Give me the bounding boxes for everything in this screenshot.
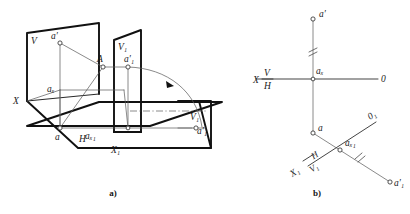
epure-label-v: V: [264, 68, 271, 78]
point-ax1-marker: [126, 126, 130, 130]
epure-label-ax1: aₓ₁: [345, 138, 356, 148]
epure-label-h: H: [263, 81, 272, 91]
point-aprime-marker: [58, 41, 62, 45]
point-A-marker: [101, 65, 105, 69]
epure-label-a1prime: a′₁: [394, 178, 404, 188]
label-ax1: aₓ₁: [85, 131, 96, 141]
descriptive-geometry-figure: V a′ A V₁ a′₁ aₓ X a H aₓ₁ X₁ V₁ a′₁: [0, 0, 410, 214]
label-v1-plane: V₁: [118, 42, 127, 52]
epure-label-aprime: a′: [319, 9, 327, 19]
line-aux-slant: [124, 90, 128, 128]
label-rotated-a1prime: a′₁: [197, 126, 207, 136]
epure-label-origin: 0: [381, 74, 386, 84]
label-a1prime: a′₁: [124, 54, 134, 64]
figure-container: V a′ A V₁ a′₁ aₓ X a H aₓ₁ X₁ V₁ a′₁: [0, 0, 410, 214]
v-plane-outline: [27, 23, 99, 101]
epure-label-v1-secondary: V₁: [307, 161, 320, 174]
pictorial-group: V a′ A V₁ a′₁ aₓ X a H aₓ₁ X₁ V₁ a′₁: [12, 23, 222, 155]
label-x-axis: X: [12, 96, 20, 106]
label-a: a: [55, 132, 60, 142]
label-ax: aₓ: [47, 84, 55, 94]
epure-label-x: X: [252, 75, 260, 85]
rotation-arrow-head: [166, 81, 174, 88]
label-aprime: a′: [51, 31, 59, 41]
epure-label-ax: aₓ: [316, 66, 324, 76]
epure-point-ax1-marker: [338, 148, 342, 152]
label-v1-rotated: V₁: [190, 112, 199, 122]
point-a-marker: [58, 126, 62, 130]
label-v-plane: V: [31, 36, 38, 46]
epure-point-ax-marker: [311, 77, 315, 81]
point-a1prime-marker: [126, 65, 130, 69]
epure-point-a1prime-marker: [388, 180, 392, 184]
epure-label-h-secondary: H: [308, 149, 320, 162]
label-x1-axis: X₁: [110, 145, 120, 155]
label-point-A: A: [96, 54, 103, 64]
epure-point-a-marker: [311, 131, 315, 135]
epure-label-x1: X₁: [287, 165, 301, 179]
epure-group: X V H 0 a′ aₓ a aₓ₁ a′₁ 0₁ H V₁ X₁: [252, 9, 404, 188]
caption-left: a): [109, 188, 117, 198]
epure-point-aprime-marker: [311, 17, 315, 21]
caption-right: b): [313, 188, 321, 198]
epure-label-a: a: [318, 123, 323, 133]
epure-label-origin1: 0₁: [366, 109, 378, 122]
